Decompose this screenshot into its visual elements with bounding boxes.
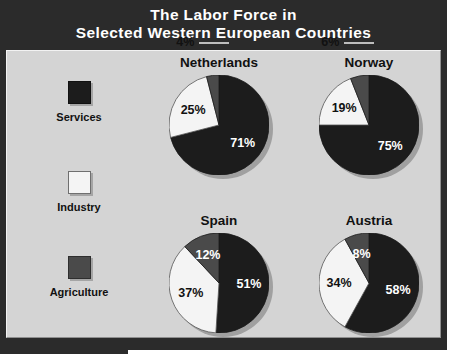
pie-graphic: 71%25%4% xyxy=(169,75,269,175)
pie-slice-value-agriculture: 8% xyxy=(352,247,370,261)
pie-chart-austria: Austria58%34%8% xyxy=(293,213,445,356)
chart-panel: ServicesIndustryAgriculture Netherlands7… xyxy=(6,50,441,338)
pie-slice-value-agriculture: 12% xyxy=(195,248,220,262)
legend: ServicesIndustryAgriculture xyxy=(15,51,143,337)
pie-chart-norway: Norway75%19%6% xyxy=(293,55,445,198)
pie-chart-spain: Spain51%37%12% xyxy=(143,213,295,356)
pie-chart-title: Austria xyxy=(293,213,445,228)
pie-graphic: 51%37%12% xyxy=(169,233,269,333)
pie-slice-value-services: 75% xyxy=(378,139,403,153)
pie-chart-title: Netherlands xyxy=(143,55,295,70)
pie-slice-value-industry: 19% xyxy=(332,101,357,115)
pie-slice-value-industry: 25% xyxy=(181,103,206,117)
pie-slice-value-agriculture: 4% xyxy=(176,35,194,49)
pie-slice-value-industry: 34% xyxy=(326,276,351,290)
pie-graphic: 75%19%6% xyxy=(319,75,419,175)
pie-slice-value-services: 58% xyxy=(386,283,411,297)
pie-chart-title: Norway xyxy=(293,55,445,70)
pie-slice-value-services: 71% xyxy=(230,136,255,150)
pie-slices xyxy=(319,75,419,175)
page-title-line-1: The Labor Force in xyxy=(150,6,297,24)
pie-label-leader-line xyxy=(344,42,374,44)
legend-item-agriculture[interactable]: Agriculture xyxy=(15,256,143,298)
square-swatch-white-icon xyxy=(68,171,91,194)
pie-chart-title: Spain xyxy=(143,213,295,228)
chart-figure: The Labor Force in Selected Western Euro… xyxy=(0,0,457,357)
legend-item-services[interactable]: Services xyxy=(15,81,143,123)
pie-label-leader-line xyxy=(199,42,229,44)
pie-slice-value-industry: 37% xyxy=(178,286,203,300)
pie-chart-netherlands: Netherlands71%25%4% xyxy=(143,55,295,198)
pie-slice-value-services: 51% xyxy=(236,277,261,291)
bottom-accent-bar xyxy=(0,347,128,354)
square-swatch-gray-icon xyxy=(68,256,91,279)
legend-item-label: Services xyxy=(15,111,143,123)
square-swatch-dark-icon xyxy=(68,81,91,104)
legend-item-label: Industry xyxy=(15,201,143,213)
pie-graphic: 58%34%8% xyxy=(319,233,419,333)
pie-slices xyxy=(169,75,269,175)
legend-item-industry[interactable]: Industry xyxy=(15,171,143,213)
legend-item-label: Agriculture xyxy=(15,286,143,298)
pie-slice-value-agriculture: 6% xyxy=(321,35,339,49)
